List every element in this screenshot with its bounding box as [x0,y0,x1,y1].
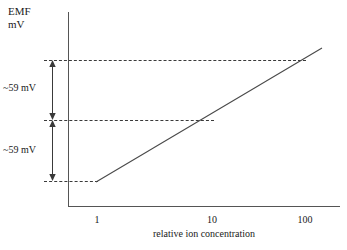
y-axis-title: EMF mV [8,5,31,31]
decade-step-arrow-upper [45,60,60,120]
chart-screenshot: EMF mV ~59 mV ~59 mV 1 10 100 relative i… [0,0,347,250]
response-line [96,48,322,182]
x-axis-title: relative ion concentration [68,228,340,240]
x-axis-line [68,206,340,207]
x-tick-label-10: 10 [192,214,232,226]
y-axis-title-units: mV [8,18,31,31]
decade-step-arrow-lower [45,120,60,181]
y-axis-line [68,12,69,207]
guide-line-decade-1 [44,120,214,121]
x-tick-label-100: 100 [285,214,325,226]
guide-line-decade-0 [44,181,98,182]
decade-step-label-lower: ~59 mV [3,144,36,156]
y-axis-title-quantity: EMF [8,5,31,18]
guide-line-decade-2 [44,60,306,61]
decade-step-label-upper: ~59 mV [3,82,36,94]
x-tick-label-1: 1 [77,214,117,226]
